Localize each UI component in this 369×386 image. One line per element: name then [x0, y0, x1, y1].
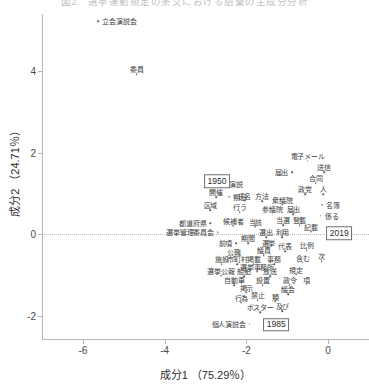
- point-label: 区域: [204, 202, 218, 209]
- point-label: 立会演説会: [102, 18, 136, 25]
- point-label: 代表: [278, 243, 292, 250]
- figure-caption: 図2 選挙運動規定の条文における語彙の主成分分析: [0, 0, 369, 6]
- x-tick: [246, 340, 247, 344]
- scatter-point: [284, 250, 286, 252]
- y-tick: [38, 316, 42, 317]
- point-label: 期間: [241, 235, 255, 242]
- point-label: 名簿: [326, 201, 340, 208]
- point-label: 事務: [267, 256, 281, 263]
- point-label: 選挙管理委員会: [166, 229, 214, 236]
- scatter-point: [210, 210, 212, 212]
- y-axis-line: [42, 14, 43, 340]
- year-marker: 2019: [326, 226, 352, 240]
- scatter-point: [272, 213, 274, 215]
- point-label: 公職: [227, 248, 241, 255]
- scatter-point: [233, 285, 235, 287]
- plot-panel: 420-2-6-4-20 立会演説会委員電子メール届出送信合同政党人期日氏名方法…: [42, 14, 369, 340]
- point-label: 選出: [259, 229, 273, 236]
- scatter-point: [215, 197, 217, 199]
- scatter-point: [98, 21, 100, 23]
- point-label: 参議院: [262, 205, 282, 212]
- point-label: 人: [320, 186, 327, 193]
- point-label: 当選: [276, 217, 290, 224]
- scatter-point: [237, 263, 239, 265]
- scatter-point: [323, 171, 325, 173]
- scatter-point: [322, 193, 324, 195]
- scatter-point: [228, 196, 230, 198]
- point-label: 設置: [256, 277, 270, 284]
- point-label: 送信: [317, 164, 331, 171]
- scatter-point: [306, 250, 308, 252]
- point-label: 前項: [219, 240, 233, 247]
- x-axis-title: 成分1 （75.29％）: [42, 366, 369, 382]
- scatter-point: [256, 271, 258, 273]
- y-tick-label: -2: [27, 310, 36, 321]
- point-label: 合同: [309, 175, 323, 182]
- point-label: 規定: [289, 266, 303, 273]
- scatter-point: [321, 204, 323, 206]
- point-label: 候補者: [223, 217, 243, 224]
- scatter-point: [282, 237, 284, 239]
- point-label: 船舶: [237, 268, 251, 275]
- point-label: 記載: [304, 223, 318, 230]
- point-label: 個人演説会: [212, 320, 246, 327]
- x-tick: [83, 340, 84, 344]
- scatter-point: [282, 311, 284, 313]
- point-label: 比例: [300, 242, 314, 249]
- point-label: ポスター: [247, 304, 274, 311]
- x-tick-label: -4: [160, 345, 169, 356]
- scatter-point: [293, 214, 295, 216]
- scatter-point: [217, 231, 219, 233]
- scatter-point: [299, 224, 301, 226]
- point-label: 開催: [209, 189, 223, 196]
- point-label: 行う: [233, 204, 247, 211]
- scatter-point: [304, 193, 306, 195]
- point-label: 禁止: [251, 292, 265, 299]
- pca-biplot-figure: 図2 選挙運動規定の条文における語彙の主成分分析 420-2-6-4-20 立会…: [0, 0, 369, 386]
- point-label: 届出: [275, 169, 289, 176]
- point-label: 自動車: [224, 277, 244, 284]
- x-tick-label: 0: [325, 345, 331, 356]
- scatter-point: [220, 275, 222, 277]
- scatter-point: [210, 223, 212, 225]
- scatter-point: [320, 215, 322, 217]
- point-label: 掲載: [247, 256, 261, 263]
- y-tick: [38, 234, 42, 235]
- scatter-point: [244, 200, 246, 202]
- point-label: 選挙公報: [207, 267, 234, 274]
- scatter-point: [321, 260, 323, 262]
- x-axis-line: [42, 339, 369, 340]
- point-label: 政党: [298, 186, 312, 193]
- y-tick: [38, 153, 42, 154]
- point-label: 次: [318, 252, 325, 259]
- point-label: 行為: [235, 294, 249, 301]
- scatter-point: [310, 231, 312, 233]
- point-label: 議会: [281, 286, 295, 293]
- scatter-point: [263, 254, 265, 256]
- point-label: 放送: [263, 268, 277, 275]
- point-label: 政令: [283, 277, 297, 284]
- point-label: 氏名: [238, 192, 252, 199]
- scatter-point: [306, 284, 308, 286]
- x-tick-label: -2: [242, 345, 251, 356]
- point-label: 届出: [287, 206, 301, 213]
- scatter-point: [259, 311, 261, 313]
- scatter-point: [136, 74, 138, 76]
- scatter-point: [262, 285, 264, 287]
- scatter-point: [291, 171, 293, 173]
- point-label: 項: [303, 276, 310, 283]
- scatter-point: [265, 237, 267, 239]
- scatter-point: [235, 242, 237, 244]
- point-label: 電子メール: [291, 152, 325, 159]
- y-tick: [38, 71, 42, 72]
- point-label: 及び: [276, 303, 290, 310]
- scatter-point: [221, 263, 223, 265]
- point-label: 類: [272, 293, 279, 300]
- scatter-point: [307, 160, 309, 162]
- scatter-point: [302, 262, 304, 264]
- year-marker: 1950: [204, 174, 230, 188]
- point-label: 含む: [296, 254, 310, 261]
- point-label: 委員: [130, 66, 144, 73]
- scatter-point: [295, 274, 297, 276]
- point-label: 方法: [255, 193, 269, 200]
